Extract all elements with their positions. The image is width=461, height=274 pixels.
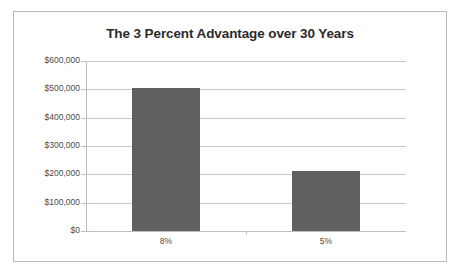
y-axis-tick-mark xyxy=(81,89,86,90)
y-axis-tick-label: $400,000 xyxy=(18,112,80,122)
x-axis-tick-label: 8% xyxy=(86,236,246,246)
chart-title: The 3 Percent Advantage over 30 Years xyxy=(14,26,446,41)
plot-area xyxy=(86,61,406,231)
y-axis-tick-label: $300,000 xyxy=(18,140,80,150)
y-axis-tick-label: $200,000 xyxy=(18,168,80,178)
y-axis-tick-mark xyxy=(81,231,86,232)
x-axis-tick-mark xyxy=(246,231,247,235)
y-axis-tick-mark xyxy=(81,174,86,175)
y-axis-tick-label: $500,000 xyxy=(18,83,80,93)
bar-5pct[interactable] xyxy=(292,171,360,231)
chart-container: The 3 Percent Advantage over 30 Years $0… xyxy=(13,11,447,262)
bar-8pct[interactable] xyxy=(132,88,200,231)
y-axis-tick-mark xyxy=(81,203,86,204)
y-axis-tick-labels: $0$100,000$200,000$300,000$400,000$500,0… xyxy=(14,61,80,232)
gridline xyxy=(86,61,406,62)
x-axis-tick-labels: 8%5% xyxy=(86,236,406,252)
x-axis-tick-label: 5% xyxy=(246,236,406,246)
y-axis-tick-label: $0 xyxy=(18,225,80,235)
y-axis-tick-label: $600,000 xyxy=(18,55,80,65)
y-axis-tick-mark xyxy=(81,146,86,147)
y-axis-tick-label: $100,000 xyxy=(18,197,80,207)
y-axis-tick-mark xyxy=(81,61,86,62)
y-axis-tick-mark xyxy=(81,118,86,119)
